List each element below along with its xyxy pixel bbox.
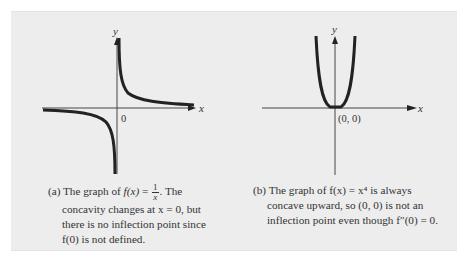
graph-b-curve xyxy=(316,36,355,107)
caption-b: (b) The graph of f(x) = x⁴ is always con… xyxy=(253,183,438,228)
caption-b-line3: inflection point even though f″(0) = 0. xyxy=(253,213,438,228)
caption-a-after: . The xyxy=(160,185,183,197)
caption-a-fx: f(x) xyxy=(124,185,140,197)
graph-a-y-label: y xyxy=(112,25,118,37)
graph-a-x-label: x xyxy=(198,102,204,114)
caption-a: (a) The graph of f(x) = 1x. The concavit… xyxy=(48,183,206,247)
graph-b-point-label: (0, 0) xyxy=(338,113,361,125)
caption-b-line2: concave upward, so (0, 0) is not an xyxy=(253,198,438,213)
graph-a-curve-positive xyxy=(119,38,194,105)
frac-denominator: x xyxy=(152,193,159,202)
caption-a-line4: f(0) is not defined. xyxy=(48,232,206,247)
caption-a-line2: concavity changes at x = 0, but xyxy=(48,202,206,217)
graph-a-origin-label: 0 xyxy=(121,113,126,124)
caption-b-line1: (b) The graph of f(x) = x⁴ is always xyxy=(253,184,412,196)
caption-a-prefix: (a) The graph of xyxy=(48,185,124,197)
graph-a-curve-negative xyxy=(43,110,115,174)
graph-b-y-label: y xyxy=(331,23,337,35)
caption-a-line3: there is no inflection point since xyxy=(48,217,206,232)
caption-a-eq: = xyxy=(139,185,151,197)
graph-b-x-label: x xyxy=(417,102,423,114)
fraction-one-over-x: 1x xyxy=(152,183,159,202)
